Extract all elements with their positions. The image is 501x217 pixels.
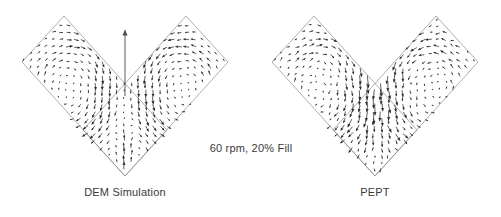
central-jet-arrowhead: [122, 30, 127, 36]
panel-caption-dem: DEM Simulation: [0, 186, 250, 198]
panel-pept: PEPT: [250, 0, 500, 217]
vessel-outline-right-arm: [333, 16, 478, 176]
panel-dem-simulation: DEM Simulation: [0, 0, 250, 217]
panel-caption-pept: PEPT: [250, 186, 500, 198]
operating-conditions-label: 60 rpm, 20% Fill: [186, 142, 316, 154]
quiver-plot-dem: [0, 0, 250, 192]
vector-field-figure: DEM Simulation PEPT 60 rpm, 20% Fill: [0, 0, 501, 217]
quiver-plot-pept: [250, 0, 500, 192]
